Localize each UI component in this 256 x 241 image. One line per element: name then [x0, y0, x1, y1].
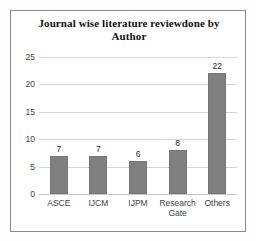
x-axis-category-label: ASCE	[37, 198, 81, 208]
bar[interactable]	[169, 150, 187, 194]
chart-title: Journal wise literature reviewdone by Au…	[25, 17, 233, 43]
bar-value-label: 8	[175, 138, 180, 148]
bar[interactable]	[208, 73, 226, 194]
y-axis-tick-label: 10	[26, 134, 35, 144]
bar-value-label: 6	[136, 149, 141, 159]
bar[interactable]	[89, 156, 107, 194]
gridline	[39, 194, 237, 195]
x-axis-category-label: Others	[195, 198, 239, 208]
bar[interactable]	[129, 161, 147, 194]
y-axis-tick-label: 5	[30, 162, 35, 172]
y-axis-tick-label: 20	[26, 79, 35, 89]
bar-value-label: 7	[96, 144, 101, 154]
chart-screenshot: Journal wise literature reviewdone by Au…	[0, 0, 256, 241]
chart-title-line-1: Journal wise literature reviewdone by	[25, 17, 233, 30]
chart-title-line-2: Author	[25, 30, 233, 43]
bar-value-label: 7	[56, 144, 61, 154]
bar-value-label: 22	[212, 61, 221, 71]
gridline	[39, 57, 237, 58]
y-axis-tick-label: 0	[30, 189, 35, 199]
chart-frame: Journal wise literature reviewdone by Au…	[10, 10, 246, 232]
x-axis-category-label: Research Gate	[156, 198, 200, 218]
x-axis-category-label: IJCM	[76, 198, 120, 208]
bar[interactable]	[50, 156, 68, 194]
y-axis-tick-label: 15	[26, 107, 35, 117]
x-axis-category-label: IJPM	[116, 198, 160, 208]
y-axis-tick-label: 25	[26, 52, 35, 62]
plot-area: 05101520257ASCE7IJCM6IJPM8Research Gate2…	[39, 57, 237, 194]
